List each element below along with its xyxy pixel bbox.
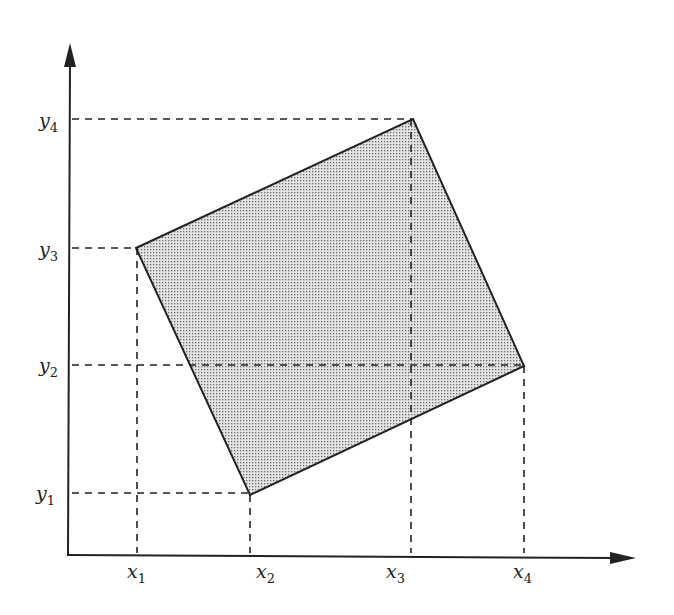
label-y4: y4 xyxy=(38,109,58,135)
label-y2: y2 xyxy=(38,354,58,380)
x-labels: x1 x2 x3 x4 xyxy=(127,560,532,586)
rotated-rectangle xyxy=(136,119,524,495)
label-x2: x2 xyxy=(256,560,275,586)
label-x3: x3 xyxy=(386,560,405,586)
label-y1: y1 xyxy=(35,482,55,508)
label-x4: x4 xyxy=(513,560,532,586)
diagram-canvas: y4 y3 y2 y1 x1 x2 x3 x4 xyxy=(0,0,674,615)
x-axis-arrow-icon xyxy=(610,552,636,564)
y-axis-arrow-icon xyxy=(64,43,76,67)
y-labels: y4 y3 y2 y1 xyxy=(35,109,58,508)
x-axis xyxy=(67,555,615,558)
y-axis xyxy=(68,62,70,555)
label-y3: y3 xyxy=(38,238,58,264)
label-x1: x1 xyxy=(127,560,146,586)
